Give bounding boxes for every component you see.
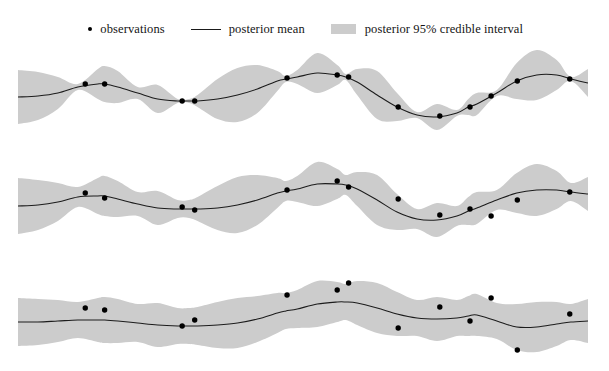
observation-point: [179, 323, 184, 328]
gaussian-process-figure: observations posterior mean posterior 95…: [0, 0, 609, 371]
observation-point: [192, 207, 197, 212]
panel-2: [18, 162, 588, 237]
band-swatch-icon: [331, 24, 356, 34]
observation-point: [346, 280, 351, 285]
legend-label-credible-interval: posterior 95% credible interval: [365, 22, 523, 37]
legend: observations posterior mean posterior 95…: [0, 18, 609, 40]
observation-point: [346, 184, 351, 189]
legend-label-observations: observations: [100, 22, 164, 37]
observation-point: [83, 190, 88, 195]
observation-point: [102, 195, 107, 200]
observation-point: [567, 311, 572, 316]
observation-point: [515, 78, 520, 83]
observation-point: [395, 104, 400, 109]
observation-point: [346, 74, 351, 79]
dot-marker-icon: [88, 27, 92, 31]
panels-svg: [0, 40, 609, 371]
observation-point: [284, 187, 289, 192]
observation-point: [395, 325, 400, 330]
observation-point: [192, 98, 197, 103]
observation-point: [83, 305, 88, 310]
observation-point: [567, 189, 572, 194]
observation-point: [192, 317, 197, 322]
observation-point: [437, 113, 442, 118]
legend-entry-posterior-mean: posterior mean: [191, 22, 305, 37]
observation-point: [102, 81, 107, 86]
observation-point: [335, 178, 340, 183]
observation-point: [179, 98, 184, 103]
observation-point: [284, 292, 289, 297]
panel-3: [18, 280, 588, 352]
panel-stack: [0, 40, 609, 371]
legend-spacer-1: [165, 29, 191, 30]
line-marker-icon: [191, 29, 221, 30]
observation-point: [467, 206, 472, 211]
credible-interval-band: [18, 281, 588, 353]
observation-point: [467, 318, 472, 323]
legend-entry-credible-interval: posterior 95% credible interval: [331, 22, 523, 37]
observation-point: [488, 295, 493, 300]
observation-point: [335, 72, 340, 77]
observation-point: [395, 196, 400, 201]
legend-spacer-2: [305, 29, 331, 30]
observation-point: [515, 347, 520, 352]
observation-point: [488, 213, 493, 218]
observation-point: [515, 197, 520, 202]
observation-point: [335, 287, 340, 292]
observation-point: [284, 75, 289, 80]
observation-point: [179, 204, 184, 209]
observation-point: [437, 212, 442, 217]
panel-1: [18, 50, 588, 130]
observation-point: [467, 104, 472, 109]
observation-point: [488, 93, 493, 98]
observation-point: [102, 307, 107, 312]
observation-point: [83, 81, 88, 86]
observation-point: [567, 76, 572, 81]
legend-entry-observations: observations: [86, 22, 165, 37]
observation-point: [437, 304, 442, 309]
legend-label-posterior-mean: posterior mean: [229, 22, 305, 37]
